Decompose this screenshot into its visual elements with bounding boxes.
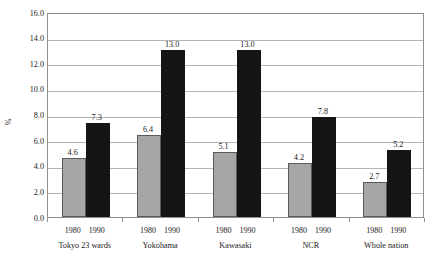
x-axis-group-label: Kawasaki (198, 241, 273, 251)
x-axis-series-label: 1990 (77, 226, 117, 236)
x-axis-group-label: Tokyo 23 wards (47, 241, 122, 251)
bar-1980-ncr (288, 163, 312, 217)
bar-value-label: 4.2 (279, 153, 319, 162)
y-axis-tick-label: 8.0 (4, 111, 44, 120)
y-axis-tick-label: 0.0 (4, 214, 44, 223)
y-axis-tick-label: 16.0 (4, 9, 44, 18)
bar-value-label: 5.2 (378, 140, 418, 149)
y-axis-tick-label: 12.0 (4, 60, 44, 69)
y-axis-tick-label: 6.0 (4, 137, 44, 146)
y-axis-tick-label: 2.0 (4, 188, 44, 197)
y-axis-tick-label: 10.0 (4, 85, 44, 94)
x-axis-tick (349, 218, 350, 222)
y-axis-tick-label: 14.0 (4, 34, 44, 43)
x-axis-series-label: 1990 (228, 226, 268, 236)
bar-value-label: 7.3 (77, 113, 117, 122)
x-axis-series-label: 1990 (152, 226, 192, 236)
bar-1990-tokyo-23-wards (86, 123, 110, 217)
bar-value-label: 6.4 (128, 125, 168, 134)
x-axis-tick (122, 218, 123, 222)
bar-1980-tokyo-23-wards (62, 158, 86, 217)
x-axis-series-label: 1990 (378, 226, 418, 236)
bar-1990-whole-nation (387, 150, 411, 217)
bar-value-label: 5.1 (204, 142, 244, 151)
x-axis-tick (198, 218, 199, 222)
bar-1980-yokohama (137, 135, 161, 217)
x-axis-tick (273, 218, 274, 222)
y-axis-tick-label: 4.0 (4, 162, 44, 171)
bar-value-label: 4.6 (53, 148, 93, 157)
bar-value-label: 2.7 (354, 172, 394, 181)
bar-1990-kawasaki (237, 50, 261, 217)
bar-1980-whole-nation (363, 182, 387, 217)
bar-value-label: 13.0 (228, 40, 268, 49)
x-axis-tick (47, 218, 48, 222)
x-axis-group-label: Whole nation (349, 241, 424, 251)
bar-value-label: 13.0 (152, 40, 192, 49)
bar-1980-kawasaki (213, 152, 237, 217)
x-axis-series-label: 1990 (303, 226, 343, 236)
x-axis-group-label: NCR (273, 241, 348, 251)
bar-chart: % 16.014.012.010.08.06.04.02.00.0 198019… (0, 0, 438, 269)
x-axis-group-label: Yokohama (122, 241, 197, 251)
bar-1990-ncr (312, 117, 336, 217)
bar-value-label: 7.8 (303, 107, 343, 116)
x-axis-tick (424, 218, 425, 222)
